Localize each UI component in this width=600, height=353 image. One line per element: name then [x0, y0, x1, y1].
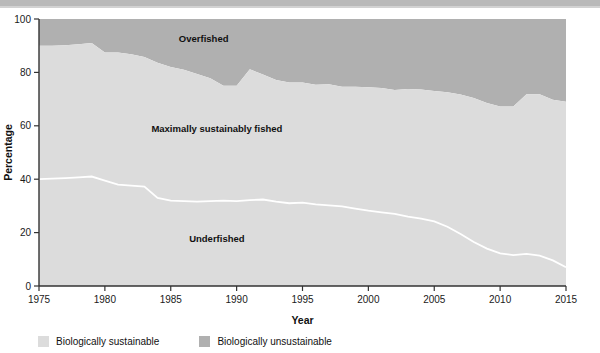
x-tick-label: 2000: [357, 294, 380, 305]
x-tick-label: 2005: [423, 294, 446, 305]
area-series-group: [39, 19, 566, 286]
x-tick-label: 2010: [489, 294, 512, 305]
y-tick-label: 0: [25, 281, 31, 292]
y-tick-label: 100: [14, 14, 31, 25]
legend-swatch-unsustainable-icon: [199, 336, 210, 347]
y-tick-group: 020406080100: [14, 14, 39, 292]
top-decorative-band: [0, 0, 600, 8]
maximally-label: Maximally sustainably fished: [151, 123, 282, 134]
overfished-label: Overfished: [179, 33, 229, 44]
x-tick-label: 1985: [160, 294, 183, 305]
chart-legend: Biologically sustainable Biologically un…: [0, 330, 600, 353]
x-tick-label: 1980: [94, 294, 117, 305]
x-tick-label: 1990: [226, 294, 249, 305]
legend-swatch-sustainable-icon: [38, 336, 49, 347]
y-tick-label: 20: [20, 227, 32, 238]
legend-label-sustainable: Biologically sustainable: [56, 336, 159, 347]
y-tick-label: 40: [20, 174, 32, 185]
chart-svg: 020406080100 197519801985199019952000200…: [0, 8, 600, 330]
underfished-label: Underfished: [189, 233, 245, 244]
x-tick-group: 197519801985199019952000200520102015: [28, 286, 578, 305]
y-axis-title: Percentage: [2, 124, 14, 181]
y-tick-label: 60: [20, 120, 32, 131]
legend-item-unsustainable: Biologically unsustainable: [199, 336, 332, 347]
x-tick-label: 1975: [28, 294, 51, 305]
legend-item-sustainable: Biologically sustainable: [38, 336, 159, 347]
y-tick-label: 80: [20, 67, 32, 78]
x-tick-label: 2015: [555, 294, 578, 305]
stacked-area-chart: 020406080100 197519801985199019952000200…: [0, 8, 600, 353]
legend-label-unsustainable: Biologically unsustainable: [217, 336, 332, 347]
x-axis-title: Year: [291, 314, 313, 326]
x-tick-label: 1995: [291, 294, 314, 305]
